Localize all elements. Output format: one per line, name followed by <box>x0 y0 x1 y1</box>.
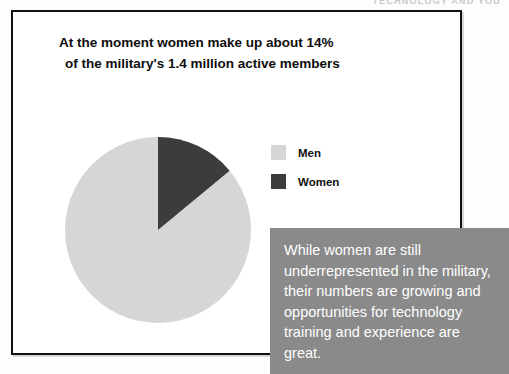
pie-chart <box>64 136 252 324</box>
legend-label-men: Men <box>298 147 321 159</box>
page-header-text: TECHNOLOGY AND YOU <box>373 0 501 6</box>
legend-item-women: Women <box>271 174 391 189</box>
legend-swatch-men-icon <box>271 145 286 160</box>
chart-title: At the moment women make up about 14% of… <box>59 32 429 74</box>
callout-box: While women are still underrepresented i… <box>270 228 509 374</box>
legend-swatch-women-icon <box>271 174 286 189</box>
chart-title-line-2: of the military's 1.4 million active mem… <box>59 53 429 74</box>
legend-item-men: Men <box>271 145 391 160</box>
pie-chart-svg <box>64 136 252 324</box>
legend-label-women: Women <box>298 176 339 188</box>
chart-title-line-1: At the moment women make up about 14% <box>59 35 334 50</box>
chart-legend: Men Women <box>271 145 391 203</box>
callout-text: While women are still underrepresented i… <box>284 240 499 363</box>
scanned-page: TECHNOLOGY AND YOU At the moment women m… <box>0 0 509 374</box>
